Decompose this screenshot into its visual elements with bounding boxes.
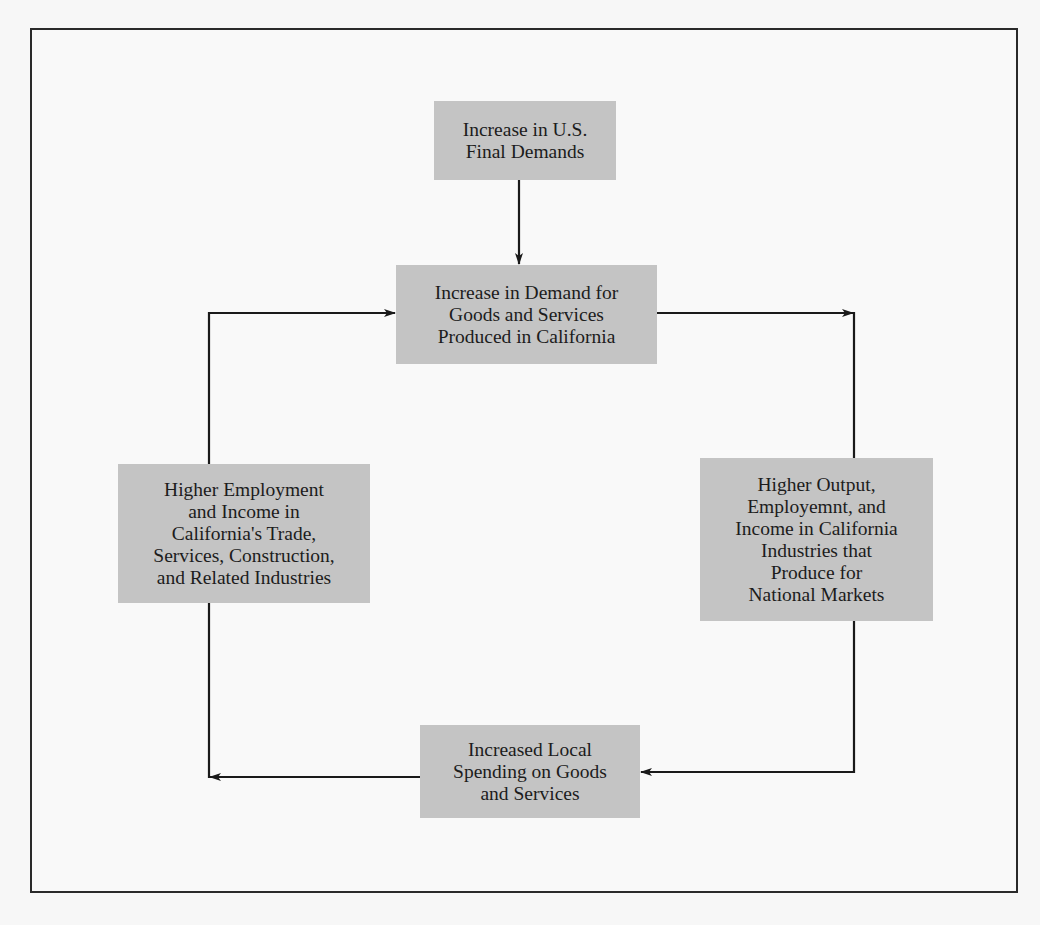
- arrow-national-industries-to-local-spending: [642, 621, 854, 772]
- node-local-industries-employment: Higher Employment and Income in Californ…: [118, 464, 370, 603]
- arrow-local-spending-to-local-industries: [209, 603, 420, 777]
- node-ca-demand-increase: Increase in Demand for Goods and Service…: [396, 265, 657, 364]
- node-national-market-industries: Higher Output, Employemnt, and Income in…: [700, 458, 933, 621]
- arrow-local-industries-to-ca-demand: [209, 313, 394, 464]
- node-local-spending: Increased Local Spending on Goods and Se…: [420, 725, 640, 818]
- arrow-ca-demand-to-national-industries: [657, 313, 854, 458]
- node-us-final-demands: Increase in U.S. Final Demands: [434, 101, 616, 180]
